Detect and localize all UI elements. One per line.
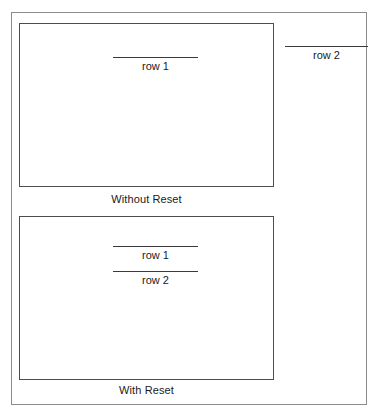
row-label: row 2 (113, 272, 198, 287)
row-item-1-without-reset: row 1 (113, 57, 198, 73)
panel-without-reset-box: row 1 (19, 23, 274, 187)
row-label: row 1 (113, 58, 198, 73)
panel-caption-without-reset: Without Reset (19, 193, 274, 205)
row-label: row 1 (113, 247, 198, 262)
row-label: row 2 (285, 47, 368, 62)
panel-without-reset: row 1 Without Reset (19, 23, 274, 219)
panel-caption-with-reset: With Reset (19, 384, 274, 396)
row-item-2-with-reset: row 2 (113, 271, 198, 287)
row-item-1-with-reset: row 1 (113, 246, 198, 262)
figure-outer-frame: row 1 Without Reset row 2 row 1 row 2 Wi… (11, 12, 367, 405)
panel-with-reset-box: row 1 row 2 (19, 216, 274, 380)
row-item-2-overflow-without-reset: row 2 (285, 46, 368, 62)
panel-with-reset: row 1 row 2 With Reset (19, 216, 274, 402)
